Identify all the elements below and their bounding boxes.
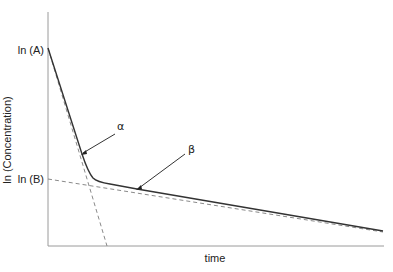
beta-extrapolation-line [48, 179, 383, 232]
ln-b-label: ln (B) [18, 173, 44, 185]
alpha-label: α [117, 120, 124, 133]
y-axis-label: ln (Concentration) [1, 96, 13, 183]
two-compartment-plot: ln (A) ln (B) α β time ln (Concentration… [0, 0, 393, 272]
concentration-curve [48, 48, 383, 231]
alpha-pointer [83, 134, 115, 153]
x-axis-label: time [205, 252, 226, 264]
ln-a-label: ln (A) [18, 44, 44, 56]
beta-label: β [188, 143, 195, 156]
beta-pointer [139, 154, 185, 188]
